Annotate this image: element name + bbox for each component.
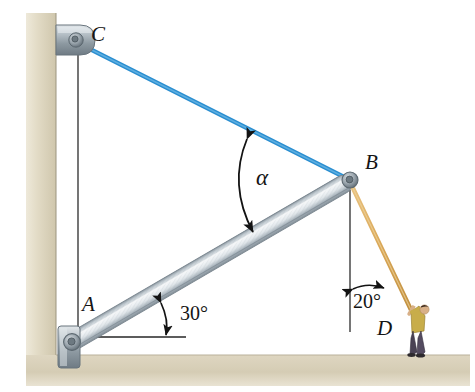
pin-b-hole	[346, 176, 353, 183]
pin-a-hole	[68, 338, 75, 345]
wall-vertical	[26, 13, 56, 376]
label-point-d: D	[377, 318, 392, 339]
label-point-a: A	[82, 294, 95, 315]
label-point-c: C	[91, 24, 105, 45]
statics-diagram-svg	[0, 0, 475, 392]
bracket-a	[58, 326, 80, 368]
label-point-b: B	[365, 152, 378, 173]
pin-b	[342, 172, 358, 188]
bracket-c	[56, 25, 95, 55]
worker-shoe-back	[407, 353, 415, 357]
label-angle-20: 20°	[353, 291, 381, 311]
figure-canvas: C A B D α 30° 20°	[0, 0, 475, 392]
label-angle-alpha: α	[256, 166, 268, 189]
worker-shoe-front	[416, 354, 425, 358]
worker-arm-right	[412, 309, 419, 312]
pin-c-hole	[72, 36, 78, 42]
label-angle-30: 30°	[180, 303, 208, 323]
floor-horizontal	[26, 355, 470, 386]
